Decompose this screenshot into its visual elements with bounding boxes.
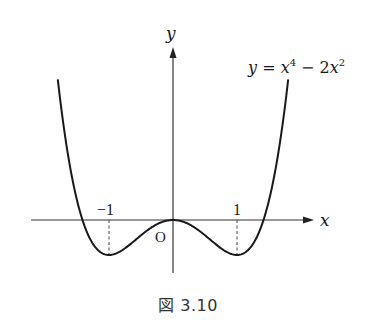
figure-caption: 図 3.10 <box>0 292 376 316</box>
equation-label: y = x4 − 2x2 <box>247 57 345 77</box>
x-axis-arrow-icon <box>303 217 314 224</box>
graph: y x y = x4 − 2x2 −1 1 O <box>0 0 376 320</box>
y-axis-label: y <box>165 23 176 43</box>
x-axis-label: x <box>320 210 330 230</box>
tick-label-neg-one: −1 <box>97 201 114 218</box>
y-axis-arrow-icon <box>170 47 177 58</box>
y-axis <box>170 47 177 273</box>
tick-label-pos-one: 1 <box>233 201 241 218</box>
origin-label: O <box>155 229 166 245</box>
